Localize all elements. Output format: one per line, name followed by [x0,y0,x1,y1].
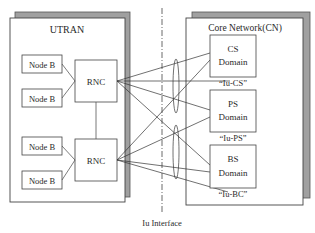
iu-interface-label: Iu Interface [142,218,182,228]
rnc-label-1: RNC [87,77,106,87]
bs-domain-line1: BS [227,154,238,164]
cs-domain-line2: Domain [219,57,248,67]
bs-domain-box [210,145,256,188]
ps-domain-line2: Domain [219,112,248,122]
rnc-label-2: RNC [87,156,106,166]
ps-domain-box [210,90,256,132]
cn-title: Core Network(CN) [208,23,282,34]
bs-domain-line2: Domain [219,168,248,178]
utran-title: UTRAN [50,24,84,35]
node-b-label-3: Node B [29,142,56,152]
iu-ps-label: “Iu-PS” [220,133,247,143]
node-b-label-1: Node B [29,60,56,70]
node-b-label-2: Node B [29,94,56,104]
cs-domain-line1: CS [227,44,238,54]
ps-domain-line1: PS [228,99,238,109]
utran-cn-iu-diagram: UTRAN Core Network(CN) Node B Node B Nod… [0,0,315,233]
iu-cs-label: “Iu-CS” [219,78,247,88]
node-b-label-4: Node B [29,176,56,186]
iu-bc-label: “Iu-BC” [219,189,248,199]
iu-bundle-ellipse-upper [173,59,179,113]
cs-domain-box [210,35,256,77]
cn-domains: CS Domain “Iu-CS” PS Domain “Iu-PS” BS D… [210,35,256,199]
